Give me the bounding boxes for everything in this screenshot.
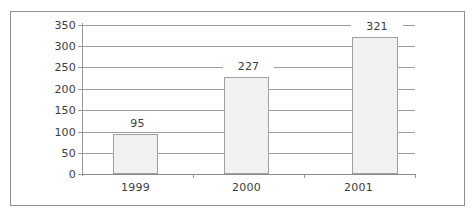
y-axis-tick-label: 300 bbox=[38, 41, 76, 52]
y-axis-tick-label: 50 bbox=[38, 148, 76, 159]
x-tick-separator bbox=[193, 174, 194, 178]
y-axis-tick-label: 0 bbox=[38, 169, 76, 180]
y-tick-50 bbox=[78, 153, 82, 154]
x-axis-label-2000: 2000 bbox=[209, 182, 284, 193]
bar-chart: 350 300 250 200 150 100 50 0 95 227 321 … bbox=[0, 0, 474, 212]
axis-baseline bbox=[82, 174, 415, 175]
y-tick-300 bbox=[78, 46, 82, 47]
x-tick-separator bbox=[304, 174, 305, 178]
y-tick-0 bbox=[78, 174, 82, 175]
y-axis-tick-label: 200 bbox=[38, 84, 76, 95]
y-tick-100 bbox=[78, 132, 82, 133]
y-tick-350 bbox=[78, 25, 82, 26]
y-tick-200 bbox=[78, 89, 82, 90]
y-axis-labels: 350 300 250 200 150 100 50 0 bbox=[30, 0, 76, 212]
y-axis-tick-label: 100 bbox=[38, 127, 76, 138]
bar-1999[interactable] bbox=[113, 134, 158, 174]
x-tick-separator bbox=[415, 174, 416, 178]
bar-2001[interactable] bbox=[352, 37, 398, 174]
data-label-2000: 227 bbox=[223, 61, 274, 72]
data-label-1999: 95 bbox=[113, 118, 162, 129]
y-tick-250 bbox=[78, 67, 82, 68]
y-axis-tick-label: 150 bbox=[38, 105, 76, 116]
x-axis-label-2001: 2001 bbox=[321, 182, 396, 193]
y-axis-tick-label: 350 bbox=[38, 20, 76, 31]
y-tick-150 bbox=[78, 110, 82, 111]
bar-2000[interactable] bbox=[224, 77, 269, 174]
data-label-2001: 321 bbox=[351, 21, 403, 32]
y-axis-line bbox=[82, 23, 83, 176]
y-axis-tick-label: 250 bbox=[38, 62, 76, 73]
x-axis-label-1999: 1999 bbox=[98, 182, 173, 193]
